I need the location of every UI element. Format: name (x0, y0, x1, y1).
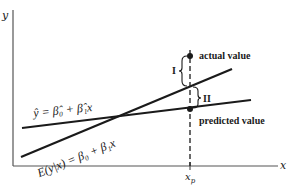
x-axis-label: x (280, 160, 286, 171)
brace-ii-label: II (203, 94, 211, 104)
xp-tick-label: xp (185, 172, 195, 185)
predicted-value-point (187, 106, 193, 112)
predicted-value-label: predicted value (199, 116, 265, 126)
brace-ii (193, 87, 201, 108)
actual-value-label: actual value (199, 51, 250, 61)
brace-i (179, 56, 187, 86)
y-axis-label: y (2, 10, 8, 21)
actual-value-point (187, 53, 193, 59)
xp-subscript: p (191, 177, 195, 185)
brace-i-label: I (172, 66, 176, 76)
